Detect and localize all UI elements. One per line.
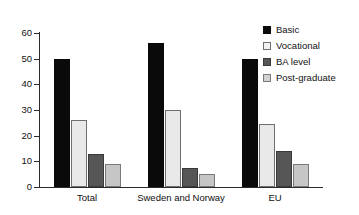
- bar: [276, 151, 292, 187]
- legend-swatch-icon: [263, 26, 271, 34]
- chart-legend: BasicVocationalBA levelPost-graduate: [263, 22, 359, 86]
- bar: [88, 154, 104, 187]
- legend-item-label: Basic: [276, 25, 299, 35]
- bar: [165, 110, 181, 187]
- bar: [182, 168, 198, 187]
- y-axis-tick-label: 60: [2, 28, 32, 38]
- y-axis-tick-labels: 0102030405060: [0, 0, 32, 215]
- bar-group: [54, 33, 121, 187]
- y-axis-tick-label: 10: [2, 157, 32, 167]
- y-axis-tick: [34, 110, 39, 111]
- bar: [293, 164, 309, 187]
- bar-group: [148, 33, 215, 187]
- y-axis-tick-label: 50: [2, 54, 32, 64]
- legend-item[interactable]: Post-graduate: [263, 70, 359, 85]
- y-axis-tick: [34, 59, 39, 60]
- legend-swatch-icon: [263, 74, 271, 82]
- bar: [105, 164, 121, 187]
- y-axis-tick: [34, 187, 39, 188]
- y-axis-tick: [34, 161, 39, 162]
- bar: [259, 124, 275, 187]
- bar: [71, 120, 87, 187]
- legend-item-label: Post-graduate: [276, 73, 336, 83]
- y-axis-tick: [34, 33, 39, 34]
- legend-item[interactable]: Basic: [263, 22, 359, 37]
- y-axis-tick: [34, 136, 39, 137]
- legend-item[interactable]: Vocational: [263, 38, 359, 53]
- legend-item-label: Vocational: [276, 41, 320, 51]
- y-axis-tick-label: 30: [2, 105, 32, 115]
- legend-item-label: BA level: [276, 57, 310, 67]
- x-axis-group-label: Total: [40, 192, 134, 203]
- bar: [148, 43, 164, 187]
- legend-swatch-icon: [263, 58, 271, 66]
- y-axis-tick-label: 0: [2, 182, 32, 192]
- bar: [54, 59, 70, 187]
- x-axis-group-label: Sweden and Norway: [134, 192, 228, 203]
- bar: [242, 59, 258, 187]
- legend-swatch-icon: [263, 42, 271, 50]
- bar: [199, 174, 215, 187]
- y-axis-tick-label: 20: [2, 131, 32, 141]
- x-axis-group-label: EU: [228, 192, 322, 203]
- y-axis-tick: [34, 84, 39, 85]
- legend-item[interactable]: BA level: [263, 54, 359, 69]
- bar-chart-figure: 0102030405060 BasicVocationalBA levelPos…: [0, 0, 359, 215]
- y-axis-tick-label: 40: [2, 80, 32, 90]
- x-axis-line: [39, 187, 323, 188]
